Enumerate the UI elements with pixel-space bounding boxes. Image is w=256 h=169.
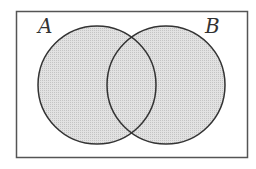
venn-diagram: A B bbox=[0, 0, 256, 169]
set-a-label: A bbox=[36, 14, 52, 38]
set-b-label: B bbox=[204, 14, 220, 38]
